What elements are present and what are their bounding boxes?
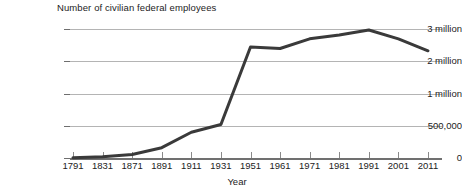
x-axis-title-label: Year	[227, 176, 246, 187]
plot-area: 3 million2 million1 million500,0000 1791…	[0, 0, 462, 194]
chart-container: Number of civilian federal employees 3 m…	[0, 0, 462, 194]
series-polyline	[73, 30, 428, 158]
x-axis-title: Year	[0, 176, 462, 187]
data-series-line	[0, 0, 462, 194]
